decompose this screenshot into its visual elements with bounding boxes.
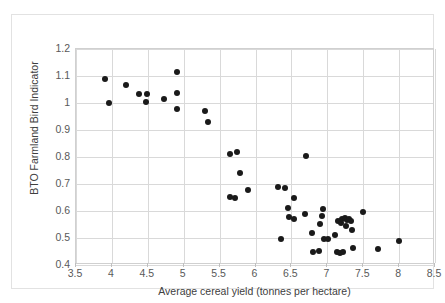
scatter-point	[278, 236, 284, 242]
scatter-point	[349, 227, 355, 233]
gridline-vertical	[291, 49, 292, 263]
scatter-point	[316, 248, 322, 254]
scatter-point	[319, 213, 325, 219]
scatter-point	[332, 232, 338, 238]
gridline-vertical	[76, 49, 77, 263]
gridline-horizontal	[76, 238, 433, 239]
x-tick-label: 3.5	[68, 267, 83, 279]
scatter-point	[343, 223, 349, 229]
scatter-point	[360, 209, 366, 215]
x-axis-tick-labels: 3.544.555.566.577.588.5	[75, 267, 434, 283]
y-tick-label: 0.5	[24, 231, 70, 243]
x-tick-label: 8	[395, 267, 401, 279]
scatter-point	[302, 211, 308, 217]
scatter-point	[237, 170, 243, 176]
scatter-point	[102, 76, 108, 82]
gridline-vertical	[399, 49, 400, 263]
gridline-vertical	[148, 49, 149, 263]
y-tick-label: 0.8	[24, 150, 70, 162]
y-tick-label: 1	[24, 96, 70, 108]
scatter-point	[174, 106, 180, 112]
y-axis-tick-labels: 0.40.50.60.70.80.911.11.2	[22, 48, 70, 264]
x-tick-label: 7	[323, 267, 329, 279]
gridline-vertical	[363, 49, 364, 263]
x-tick-label: 5	[180, 267, 186, 279]
y-tick-label: 1.1	[24, 69, 70, 81]
gridline-horizontal	[76, 130, 433, 131]
scatter-point	[291, 216, 297, 222]
chart-frame: BTO Farmland Bird Indicator 0.40.50.60.7…	[11, 14, 434, 289]
x-tick-mark	[326, 263, 327, 267]
scatter-point	[325, 236, 331, 242]
x-tick-mark	[111, 263, 112, 267]
gridline-horizontal	[76, 211, 433, 212]
x-axis-title: Average cereal yield (tonnes per hectare…	[75, 285, 434, 297]
y-tick-label: 0.4	[24, 258, 70, 270]
scatter-point	[285, 205, 291, 211]
y-tick-label: 1.2	[24, 42, 70, 54]
scatter-point	[174, 90, 180, 96]
x-tick-label: 6	[252, 267, 258, 279]
scatter-point	[317, 221, 323, 227]
x-tick-mark	[398, 263, 399, 267]
x-tick-mark	[219, 263, 220, 267]
scatter-point	[340, 249, 346, 255]
x-tick-mark	[255, 263, 256, 267]
scatter-point	[282, 185, 288, 191]
scatter-point	[350, 245, 356, 251]
scatter-point	[348, 218, 354, 224]
x-tick-mark	[147, 263, 148, 267]
scatter-point	[291, 195, 297, 201]
gridline-horizontal	[76, 103, 433, 104]
y-tick-label: 0.9	[24, 123, 70, 135]
gridline-horizontal	[76, 184, 433, 185]
scatter-point	[106, 100, 112, 106]
gridline-vertical	[256, 49, 257, 263]
gridline-vertical	[184, 49, 185, 263]
x-tick-label: 8.5	[427, 267, 442, 279]
y-tick-label: 0.6	[24, 204, 70, 216]
gridline-vertical	[112, 49, 113, 263]
gridline-horizontal	[76, 157, 433, 158]
scatter-point	[232, 195, 238, 201]
x-tick-label: 4.5	[139, 267, 154, 279]
x-tick-label: 6.5	[283, 267, 298, 279]
scatter-point	[123, 82, 129, 88]
x-tick-mark	[290, 263, 291, 267]
scatter-point	[144, 91, 150, 97]
scatter-point	[245, 187, 251, 193]
scatter-point	[396, 238, 402, 244]
x-tick-label: 5.5	[211, 267, 226, 279]
scatter-point	[205, 119, 211, 125]
scatter-point	[234, 149, 240, 155]
scatter-point	[227, 151, 233, 157]
gridline-vertical	[220, 49, 221, 263]
scatter-point	[161, 96, 167, 102]
y-tick-label: 0.7	[24, 177, 70, 189]
scatter-plot-area	[75, 48, 434, 264]
scatter-point	[136, 91, 142, 97]
x-tick-label: 4	[108, 267, 114, 279]
scatter-point	[303, 153, 309, 159]
scatter-point	[375, 246, 381, 252]
gridline-vertical	[435, 49, 436, 263]
x-tick-mark	[362, 263, 363, 267]
scatter-point	[202, 108, 208, 114]
x-tick-mark	[75, 263, 76, 267]
gridline-horizontal	[76, 49, 433, 50]
scatter-point	[275, 184, 281, 190]
gridline-vertical	[327, 49, 328, 263]
x-tick-mark	[434, 263, 435, 267]
x-tick-mark	[183, 263, 184, 267]
gridline-horizontal	[76, 76, 433, 77]
scatter-point	[309, 230, 315, 236]
x-tick-label: 7.5	[355, 267, 370, 279]
scatter-point	[174, 69, 180, 75]
